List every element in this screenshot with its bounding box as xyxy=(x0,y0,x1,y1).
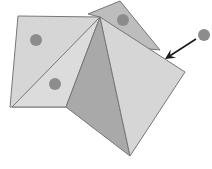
arrow-icon xyxy=(165,39,196,59)
dot-outside-marker xyxy=(198,29,210,41)
pyramid-fold-diagram xyxy=(0,0,212,169)
arrow-shaft xyxy=(170,39,196,56)
dot-back-square-marker xyxy=(117,14,129,26)
arrow-head xyxy=(165,49,176,59)
faces-group xyxy=(10,1,185,156)
dot-left-triangle-marker xyxy=(49,78,61,90)
dot-left-square-marker xyxy=(30,34,42,46)
